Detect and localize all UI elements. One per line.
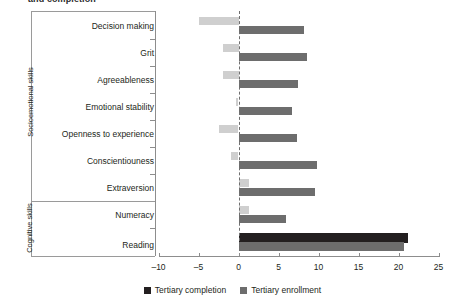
group-bracket-top-socioemotional	[31, 11, 155, 12]
bar-enrollment[interactable]	[239, 242, 405, 251]
bar-enrollment[interactable]	[239, 53, 308, 61]
bar-completion[interactable]	[231, 152, 238, 160]
legend-label-completion: Tertiary completion	[155, 285, 226, 295]
category-label-conscientiouness: Conscientiouness	[87, 156, 154, 166]
bar-completion[interactable]	[219, 125, 238, 133]
bar-completion[interactable]	[239, 179, 249, 187]
category-tick	[150, 174, 155, 175]
value-axis-tick-label: –5	[184, 262, 214, 272]
bar-enrollment[interactable]	[239, 134, 297, 142]
value-axis-tick	[399, 253, 400, 257]
value-axis-tick	[159, 253, 160, 257]
legend-swatch-enrollment	[240, 287, 247, 294]
category-label-decision-making: Decision making	[92, 21, 154, 31]
category-label-grit: Grit	[140, 48, 154, 58]
bar-completion[interactable]	[223, 44, 239, 52]
legend-swatch-completion	[144, 287, 151, 294]
group-bracket-divider	[31, 201, 155, 202]
value-axis-tick-label: 0	[224, 262, 254, 272]
category-tick	[150, 120, 155, 121]
bar-enrollment[interactable]	[239, 80, 298, 88]
group-bracket-bottom-cognitive	[31, 256, 155, 257]
value-axis-tick-label: 10	[304, 262, 334, 272]
category-label-numeracy: Numeracy	[115, 210, 154, 220]
value-axis-tick-label: –10	[144, 262, 174, 272]
value-axis-tick-label: 15	[344, 262, 374, 272]
group-label-socioemotional: Socioemotional skills	[26, 12, 35, 192]
value-axis-tick	[439, 253, 440, 257]
category-label-agreeableness: Agreeableness	[97, 75, 154, 85]
category-tick	[150, 228, 155, 229]
legend-item-tertiary-enrollment[interactable]: Tertiary enrollment	[240, 285, 321, 295]
group-label-cognitive: Cognitive skills	[26, 202, 34, 254]
value-axis-tick-label: 25	[424, 262, 454, 272]
category-label-emotional-stability: Emotional stability	[85, 102, 154, 112]
chart-plot-area: Socioemotional skills Cognitive skills D…	[0, 0, 465, 304]
category-tick	[150, 93, 155, 94]
category-label-openness-to-experience: Openness to experience	[62, 129, 154, 139]
category-tick	[150, 39, 155, 40]
bar-enrollment[interactable]	[239, 188, 315, 196]
category-tick	[150, 147, 155, 148]
bar-completion[interactable]	[239, 206, 249, 214]
bar-completion[interactable]	[223, 71, 239, 79]
bar-enrollment[interactable]	[239, 26, 305, 34]
category-label-reading: Reading	[122, 240, 154, 250]
bar-enrollment[interactable]	[239, 215, 286, 223]
value-axis-tick-label: 5	[264, 262, 294, 272]
legend-label-enrollment: Tertiary enrollment	[251, 285, 321, 295]
value-axis-tick	[199, 253, 200, 257]
bar-completion[interactable]	[199, 17, 239, 25]
value-axis-tick	[359, 253, 360, 257]
value-axis-tick	[239, 253, 240, 257]
chart-legend: Tertiary completion Tertiary enrollment	[0, 285, 465, 295]
category-label-extraversion: Extraversion	[107, 183, 154, 193]
zero-reference-line	[239, 11, 240, 256]
value-axis	[159, 256, 439, 257]
category-tick	[150, 66, 155, 67]
legend-item-tertiary-completion[interactable]: Tertiary completion	[144, 285, 226, 295]
value-axis-tick-label: 20	[384, 262, 414, 272]
value-axis-tick	[279, 253, 280, 257]
category-axis	[155, 11, 156, 256]
value-axis-tick	[319, 253, 320, 257]
bar-enrollment[interactable]	[239, 107, 293, 115]
bar-enrollment[interactable]	[239, 161, 317, 169]
